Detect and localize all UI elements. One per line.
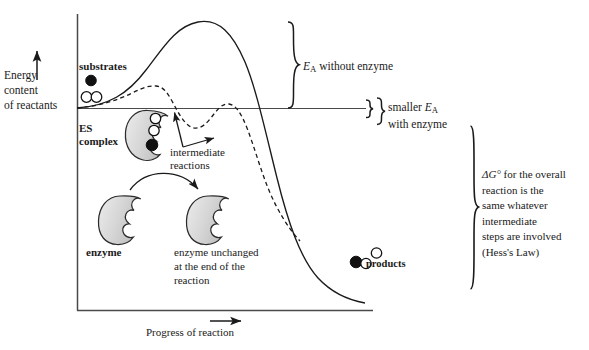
ea-symbol: E	[303, 60, 310, 72]
arrow-icon	[175, 113, 184, 148]
substrate-molecules	[81, 75, 102, 102]
hess-line-4: intermediate	[482, 214, 584, 230]
diagram-canvas: Energy content of reactants Progress of …	[0, 0, 589, 350]
curly-brace-icon	[377, 98, 385, 124]
enzyme-unchanged-line-1: enzyme unchanged	[174, 245, 259, 259]
y-axis-label-line-1: Energy	[4, 68, 74, 83]
hess-line-1: ΔG° for the overall	[482, 167, 584, 183]
open-circle-icon	[81, 92, 92, 103]
filled-circle-icon	[86, 75, 97, 86]
brace-ea-with-enzyme-inner	[366, 100, 373, 118]
brace-ea-without-enzyme	[288, 22, 299, 108]
hess-line-6: (Hess's Law)	[482, 245, 584, 261]
es-complex-label-line-2: complex	[79, 135, 118, 148]
es-complex-label-line-1: ES	[79, 122, 118, 135]
substrates-label: substrates	[79, 60, 127, 73]
open-circle-icon	[150, 113, 160, 123]
enzyme-free-figure	[98, 196, 140, 245]
y-axis-label-line-2: content	[4, 83, 74, 98]
brace-ea-with-enzyme-outer	[377, 98, 385, 124]
hess-law-annotation: ΔG° for the overall reaction is the same…	[482, 167, 584, 261]
ea-without-enzyme-label: EA without enzyme	[303, 60, 393, 75]
open-circle-icon	[149, 125, 159, 135]
enzyme-crescent-icon	[125, 110, 168, 160]
es-complex-label: ES complex	[79, 122, 118, 149]
ea-without-enzyme-text: without enzyme	[316, 60, 393, 72]
curly-brace-icon	[366, 100, 373, 118]
enzyme-crescent-icon	[98, 196, 140, 245]
hess-line-2: reaction is the	[482, 183, 584, 199]
filled-circle-icon	[146, 139, 158, 151]
open-circle-icon	[371, 248, 381, 258]
enzyme-unchanged-label: enzyme unchanged at the end of the react…	[174, 245, 259, 287]
hess-line-3: same whatever	[482, 198, 584, 214]
enzyme-unchanged-figure	[186, 196, 228, 245]
smaller-text: smaller	[388, 101, 425, 113]
x-axis-label: Progress of reaction	[146, 326, 234, 339]
es-complex-figure	[125, 110, 168, 160]
enzyme-crescent-icon	[186, 196, 228, 245]
enzyme-label: enzyme	[86, 246, 121, 259]
filled-circle-icon	[350, 256, 362, 268]
curly-brace-icon	[471, 126, 479, 289]
hess-line-1-text: for the overall	[501, 168, 566, 180]
ea-with-enzyme-line-2: with enzyme	[388, 117, 447, 132]
delta-g-symbol: ΔG°	[482, 168, 501, 180]
y-axis-label-line-3: of reactants	[4, 98, 74, 113]
curly-brace-icon	[288, 22, 299, 108]
intermediate-arrows	[175, 113, 215, 148]
ea-with-enzyme-line-1: smaller EA	[388, 100, 447, 117]
curved-arrow-icon	[130, 173, 198, 190]
open-circle-icon	[91, 92, 102, 103]
brace-hess-law	[471, 126, 479, 289]
ea-symbol: E	[425, 101, 432, 113]
intermediate-reactions-label: intermediate reactions	[170, 146, 225, 172]
enzyme-unchanged-line-3: reaction	[174, 273, 259, 287]
hess-line-5: steps are involved	[482, 229, 584, 245]
products-label: products	[366, 258, 405, 270]
ea-with-enzyme-label: smaller EA with enzyme	[388, 100, 447, 132]
y-axis-label: Energy content of reactants	[4, 68, 74, 114]
enzyme-unchanged-line-2: at the end of the	[174, 259, 259, 273]
intermediate-label-line-1: intermediate	[170, 146, 225, 159]
intermediate-label-line-2: reactions	[170, 159, 225, 172]
ea-subscript: A	[432, 105, 438, 115]
